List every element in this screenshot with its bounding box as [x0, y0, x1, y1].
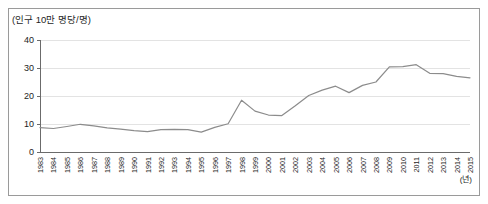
- y-axis-unit-label: (인구 10만 명당/명): [12, 12, 91, 26]
- figure-border: [8, 8, 480, 196]
- chart-figure: (인구 10만 명당/명) 010203040 1983198419851986…: [0, 0, 488, 204]
